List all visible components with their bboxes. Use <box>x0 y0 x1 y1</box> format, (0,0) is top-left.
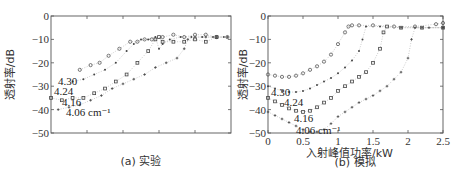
marker-dot <box>93 74 95 76</box>
marker-square <box>382 31 385 34</box>
x-tick-label: 0 <box>265 135 271 147</box>
marker-dot <box>115 62 117 64</box>
marker-plus <box>337 115 340 118</box>
x-tick-label: 1.5 <box>366 135 380 147</box>
marker-plus <box>165 62 168 65</box>
y-tick-label: 0 <box>261 10 267 22</box>
x-tick-label: 2.5 <box>436 135 450 147</box>
marker-plus <box>176 57 179 60</box>
y-tick-label: −30 <box>32 80 50 92</box>
curve-annotation: 4.16 <box>294 112 314 124</box>
marker-dot <box>126 50 128 52</box>
marker-dot <box>351 59 353 61</box>
panel-b-simulation: 0−10−20−30−40−5000.511.522.54.304.244.16… <box>236 10 450 169</box>
y-tick-label: 0 <box>44 10 50 22</box>
marker-plus <box>281 118 284 121</box>
y-tick-label: −50 <box>249 127 267 139</box>
marker-plus <box>154 66 157 69</box>
marker-square <box>93 92 96 95</box>
marker-plus <box>274 114 277 117</box>
marker-plus <box>358 101 361 104</box>
y-tick-label: −10 <box>249 33 267 45</box>
marker-dot <box>379 26 381 28</box>
y-tick-label: −20 <box>32 57 50 69</box>
y-tick-label: −40 <box>249 104 267 116</box>
marker-dot <box>147 38 149 40</box>
marker-dot <box>365 26 367 28</box>
marker-square <box>323 101 326 104</box>
marker-plus <box>379 90 382 93</box>
marker-square <box>114 80 117 83</box>
series-4.24 <box>72 36 225 82</box>
y-tick-label: −50 <box>32 127 50 139</box>
marker-plus <box>351 106 354 109</box>
series-line <box>268 23 443 77</box>
panel-caption: (a) 实验 <box>121 154 162 168</box>
marker-dot <box>295 91 297 93</box>
panel-a-experiment: 0−10−20−30−40−504.304.244.164.06 cm⁻¹透射率… <box>3 10 231 168</box>
marker-dot <box>344 66 346 68</box>
marker-plus <box>400 71 403 74</box>
marker-plus <box>111 87 114 90</box>
y-tick-label: −30 <box>249 80 267 92</box>
marker-plus <box>372 94 375 97</box>
marker-plus <box>386 85 389 88</box>
series-4.16 <box>50 36 218 102</box>
y-axis-label: 透射率/dB <box>236 49 250 100</box>
curve-annotation: 4.06 cm⁻¹ <box>296 124 341 136</box>
marker-circle <box>322 60 325 63</box>
marker-circle <box>329 53 332 56</box>
marker-plus <box>442 26 445 29</box>
marker-circle <box>98 61 101 64</box>
marker-plus <box>365 98 368 101</box>
x-tick-label: 0.5 <box>296 135 310 147</box>
series-4.24 <box>267 26 444 94</box>
marker-plus <box>393 78 396 81</box>
marker-plus <box>407 57 410 60</box>
marker-dot <box>190 36 192 38</box>
marker-dot <box>180 36 182 38</box>
marker-plus <box>89 99 92 102</box>
marker-dot <box>169 38 171 40</box>
x-tick-label: 1 <box>335 135 341 147</box>
marker-plus <box>143 73 146 76</box>
marker-circle <box>308 68 311 71</box>
marker-dot <box>104 69 106 71</box>
series-line <box>73 37 224 81</box>
marker-plus <box>57 108 60 111</box>
marker-plus <box>414 26 417 29</box>
marker-square <box>104 87 107 90</box>
marker-dot <box>82 78 84 80</box>
marker-plus <box>100 94 103 97</box>
marker-dot <box>330 77 332 79</box>
series-line <box>268 27 443 93</box>
marker-circle <box>89 64 92 67</box>
panel-caption: (b) 模拟 <box>334 155 375 169</box>
marker-plus <box>344 111 347 114</box>
marker-dot <box>302 90 304 92</box>
marker-circle <box>336 42 339 45</box>
marker-dot <box>267 85 269 87</box>
marker-dot <box>133 43 135 45</box>
figure: 0−10−20−30−40−504.304.244.164.06 cm⁻¹透射率… <box>0 0 466 178</box>
marker-square <box>330 97 333 100</box>
y-tick-label: −40 <box>32 104 50 116</box>
marker-plus <box>133 78 136 81</box>
y-tick-label: −10 <box>32 33 50 45</box>
series-line <box>51 37 217 100</box>
marker-circle <box>107 54 110 57</box>
marker-dot <box>362 38 364 40</box>
marker-plus <box>122 83 125 86</box>
marker-dot <box>140 38 142 40</box>
marker-dot <box>309 88 311 90</box>
marker-dot <box>316 84 318 86</box>
series-4.30 <box>266 21 444 78</box>
marker-plus <box>267 111 270 114</box>
marker-dot <box>358 50 360 52</box>
x-tick-label: 2 <box>405 135 411 147</box>
marker-plus <box>410 38 413 41</box>
y-tick-label: −20 <box>249 57 267 69</box>
marker-dot <box>337 72 339 74</box>
marker-square <box>358 75 361 78</box>
marker-dot <box>158 48 160 50</box>
